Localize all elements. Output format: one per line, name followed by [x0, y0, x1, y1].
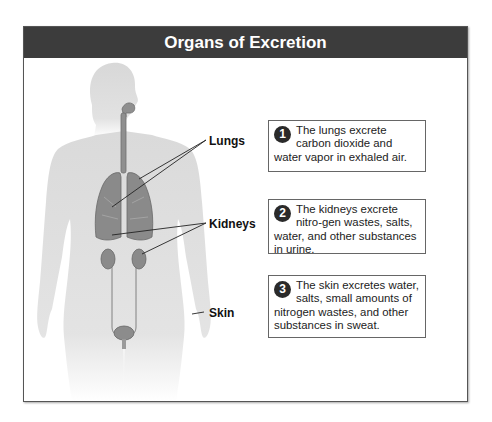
number-badge-3: 3	[274, 281, 291, 298]
diagram-frame: Organs of Excretion	[23, 26, 468, 402]
number-badge-1: 1	[274, 126, 291, 143]
callout-text-lungs: The lungs excrete carbon dioxide and wat…	[274, 124, 421, 164]
label-lungs: Lungs	[209, 134, 245, 148]
callout-lungs: 1 The lungs excrete carbon dioxide and w…	[268, 120, 426, 172]
callout-skin: 3 The skin excretes water, salts, small …	[268, 275, 426, 338]
label-kidneys: Kidneys	[209, 217, 256, 231]
callout-kidneys: 2 The kidneys excrete nitro-gen wastes, …	[268, 199, 426, 254]
label-skin: Skin	[209, 306, 234, 320]
callout-text-skin: The skin excretes water, salts, small am…	[274, 279, 421, 332]
callout-text-kidneys: The kidneys excrete nitro-gen wastes, sa…	[274, 203, 421, 256]
number-badge-2: 2	[274, 205, 291, 222]
